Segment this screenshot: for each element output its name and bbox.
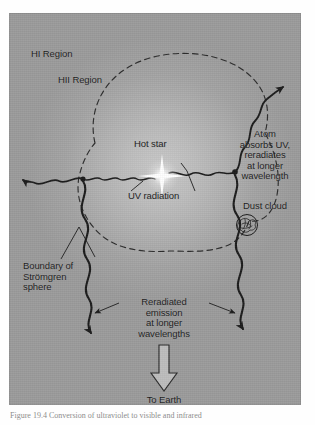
figure-caption: Figure 19.4 Conversion of ultraviolet to… [10, 411, 305, 424]
label-dust-cloud: Dust cloud [227, 201, 301, 212]
to-earth-arrow [151, 345, 177, 391]
label-hi-region: HI Region [31, 49, 72, 60]
figure-page: HI Region HII Region Hot star UV radiati… [0, 0, 315, 425]
reradiated-photon-right [234, 175, 244, 329]
label-to-earth: To Earth [131, 395, 197, 405]
label-hot-star: Hot star [134, 139, 166, 150]
boundary-leaders [61, 227, 95, 259]
uv-ray-left [23, 176, 155, 184]
label-hii-region: HII Region [58, 75, 102, 86]
label-boundary-stromgren-sphere: Boundary of Strömgren sphere [23, 261, 107, 293]
reradiated-photon-left [82, 181, 92, 333]
label-reradiated-emission: Reradiated emission at longer wavelength… [121, 297, 207, 339]
label-uv-radiation: UV radiation [128, 191, 179, 202]
diagram-panel: HI Region HII Region Hot star UV radiati… [9, 13, 301, 405]
label-atom-absorbs-uv: Atom absorbs UV, reradiates at longer wa… [226, 129, 301, 182]
